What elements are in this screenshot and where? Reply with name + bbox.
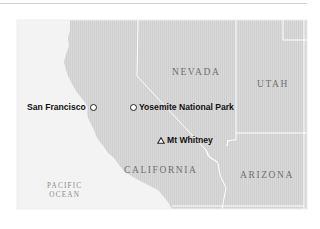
poi-yosemite-national-park[interactable]: Yosemite National Park [130, 102, 234, 112]
circle-marker-icon [90, 104, 97, 111]
poi-mt-whitney[interactable]: Mt Whitney [157, 135, 213, 145]
ocean-label-line2: OCEAN [47, 191, 82, 200]
poi-label: Mt Whitney [167, 135, 213, 145]
poi-label: San Francisco [27, 102, 86, 112]
ocean-label-line1: PACIFIC [47, 182, 82, 191]
triangle-marker-icon [157, 137, 165, 144]
state-label-utah: UTAH [257, 79, 289, 89]
circle-marker-icon [130, 104, 137, 111]
state-label-nevada: NEVADA [172, 67, 220, 77]
state-label-arizona: ARIZONA [240, 170, 294, 180]
poi-san-francisco[interactable]: San Francisco [27, 102, 97, 112]
ocean-label: PACIFIC OCEAN [47, 182, 82, 199]
state-label-california: CALIFORNIA [124, 165, 198, 175]
poi-label: Yosemite National Park [139, 102, 234, 112]
